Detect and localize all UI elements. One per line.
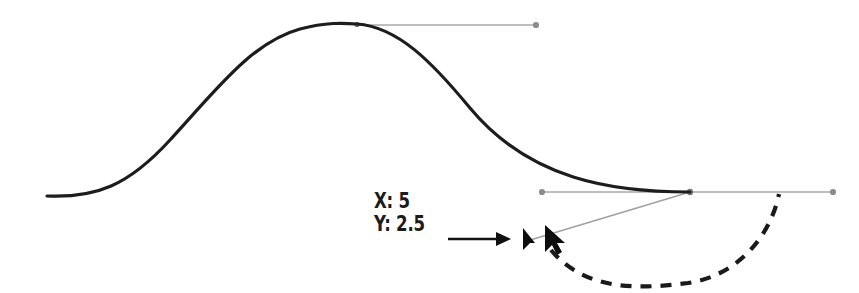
readout-y-label: Y: 2.5 bbox=[374, 213, 471, 236]
rotation-arc-group bbox=[551, 194, 779, 286]
main-bezier-curve[interactable] bbox=[47, 23, 690, 196]
coordinate-readout: X: 5 Y: 2.5 bbox=[374, 190, 484, 235]
readout-x-label: X: 5 bbox=[374, 190, 471, 213]
pointer-arrow-head bbox=[496, 232, 511, 246]
bezier-curve-illustration: X: 5 Y: 2.5 bbox=[0, 0, 859, 293]
drawing-canvas bbox=[0, 0, 859, 293]
rotation-arc-path bbox=[551, 194, 779, 286]
upper-anchor-handle-group[interactable] bbox=[354, 22, 539, 28]
mouse-cursor bbox=[545, 225, 565, 255]
lower-anchor-handle-dot-left[interactable] bbox=[539, 189, 545, 195]
lower-anchor-handle-dot-right[interactable] bbox=[830, 189, 836, 195]
upper-anchor-handle-dot[interactable] bbox=[533, 22, 539, 28]
